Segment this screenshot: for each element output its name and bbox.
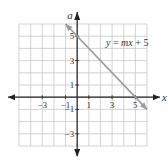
equation-part: = [110,37,121,48]
y-tick-label: −3 [65,129,75,139]
y-tick-label: 1 [70,80,75,90]
y-axis-arrow-up-icon [74,12,80,20]
x-tick-label: 5 [133,100,138,110]
y-axis-label: a [67,9,73,21]
x-tick-label: 3 [110,100,115,110]
x-axis-label: x [161,91,167,103]
equation-part: + 5 [133,37,149,48]
x-axis-arrow-right-icon [153,94,160,100]
x-tick-label: −3 [37,100,47,110]
equation-part: mx [121,37,133,48]
x-tick-label: 1 [87,100,92,110]
y-axis-arrow-down-icon [74,149,80,157]
x-axis-arrow-left-icon [8,94,15,100]
y-tick-label: 3 [70,56,75,66]
equation-label: y = mx + 5 [105,37,148,48]
coordinate-plane: xa−3−1135531−1−3y = mx + 5 [0,0,168,162]
y-tick-label: −1 [65,104,75,114]
